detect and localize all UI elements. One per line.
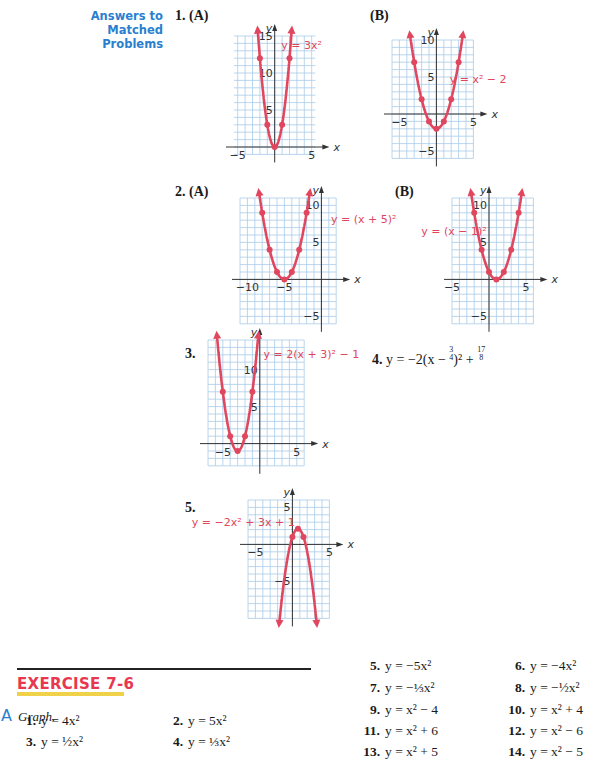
x-axis-arrow-icon xyxy=(540,277,547,282)
curve-arrow-left-icon xyxy=(256,188,264,197)
problem-5-label: 5. xyxy=(185,500,196,516)
y-axis-arrow-icon xyxy=(319,186,324,193)
exercise-problem: 5.y = −5x² xyxy=(360,658,431,674)
curve-arrow-left-icon xyxy=(468,188,476,197)
y-axis-arrow-icon xyxy=(434,28,439,35)
problem-equation: y = x² + 4 xyxy=(530,702,583,717)
data-point xyxy=(242,433,248,439)
graph-2a: xy−10−5−5510y = (x + 5)² xyxy=(226,184,370,338)
x-tick-label: 5 xyxy=(293,446,300,459)
exercise-problem: 4.y = ⅓x² xyxy=(163,734,230,750)
problem-number: 5. xyxy=(185,500,196,515)
x-axis-label: x xyxy=(550,273,558,286)
problem-2b-label: (B) xyxy=(395,184,414,200)
problem-1a-label: 1. (A) xyxy=(175,8,208,24)
problem-equation: y = x² + 5 xyxy=(385,744,438,759)
problem-number: 10. xyxy=(505,702,525,718)
problem-2a-label: 2. (A) xyxy=(175,184,208,200)
x-axis-arrow-icon xyxy=(343,277,350,282)
x-axis-arrow-icon xyxy=(311,441,318,446)
y-axis-label: y xyxy=(282,486,290,499)
graph-1b: xy−55−5510y = x² − 2 xyxy=(378,26,507,172)
exercise-problem: 8.y = −½x² xyxy=(505,680,580,696)
y-tick-label: 5 xyxy=(283,501,290,514)
problem-number: 4. xyxy=(163,734,183,750)
y-tick-label: 5 xyxy=(312,236,319,249)
y-tick-label: −5 xyxy=(471,310,487,323)
problem-number: 6. xyxy=(505,658,525,674)
exercise-problem: 11.y = x² + 6 xyxy=(360,723,438,739)
data-point xyxy=(433,126,439,132)
y-axis-label: y xyxy=(479,184,487,197)
curve-arrow-left-icon xyxy=(407,30,415,38)
fraction-17-8: 178 xyxy=(477,346,485,362)
data-point xyxy=(295,526,301,532)
problem-equation: y = −⅓x² xyxy=(385,680,435,695)
problem-part: (B) xyxy=(395,184,414,199)
answer-4-lhs: y = −2(x − xyxy=(386,352,449,367)
y-tick-label: −5 xyxy=(303,310,319,323)
data-point xyxy=(289,269,295,275)
data-point xyxy=(411,59,417,65)
x-tick-label: 5 xyxy=(470,116,477,129)
answer-4: 4. y = −2(x − 34)² + 178 xyxy=(372,346,485,368)
problem-number: 11. xyxy=(360,723,380,739)
data-point xyxy=(220,389,226,395)
data-point xyxy=(289,534,295,540)
exercise-problem: 9.y = x² − 4 xyxy=(360,702,438,718)
graph-1a: xy−5551015y = 3x² xyxy=(220,22,349,168)
problem-number: 7. xyxy=(360,680,380,696)
problem-number: 2. xyxy=(175,184,186,199)
problem-number: 13. xyxy=(360,744,380,760)
curve-arrow-right-icon xyxy=(458,30,466,38)
problem-1b-label: (B) xyxy=(370,8,389,24)
problem-number: 12. xyxy=(505,723,525,739)
data-point xyxy=(301,534,307,540)
data-point xyxy=(426,118,432,124)
equation-label: y = (x + 5)² xyxy=(331,213,396,226)
answers-heading-line2: Matched Problems xyxy=(60,23,163,51)
data-point xyxy=(287,55,293,61)
y-tick-label: 10 xyxy=(420,34,434,47)
exercise-problem: 7.y = −⅓x² xyxy=(360,680,435,696)
curve-arrow-left-icon xyxy=(213,331,221,339)
problem-number: 8. xyxy=(505,680,525,696)
grid xyxy=(452,198,533,324)
data-point xyxy=(274,269,280,275)
exercise-divider xyxy=(17,668,311,670)
x-tick-label: −10 xyxy=(236,281,259,294)
problem-number: 9. xyxy=(360,702,380,718)
problem-number: 4. xyxy=(372,352,383,367)
x-axis-label: x xyxy=(490,108,498,121)
x-axis-arrow-icon xyxy=(336,542,343,547)
problem-equation: y = x² − 6 xyxy=(530,723,583,738)
data-point xyxy=(249,389,255,395)
y-axis-arrow-icon xyxy=(272,24,277,31)
x-axis-label: x xyxy=(321,438,329,451)
data-point xyxy=(508,247,514,253)
data-point xyxy=(296,247,302,253)
data-point xyxy=(448,96,454,102)
curve-arrow-right-icon xyxy=(517,188,525,197)
graph-3: xy−55510y = 2(x + 3)² − 1 xyxy=(194,326,338,480)
x-axis-arrow-icon xyxy=(322,145,329,150)
data-point xyxy=(501,269,507,275)
exercise-title-underline xyxy=(17,692,124,696)
problem-equation: y = 5x² xyxy=(188,713,227,728)
problem-equation: y = −4x² xyxy=(530,658,576,673)
exercise-problem: 12.y = x² − 6 xyxy=(505,723,583,739)
data-point xyxy=(281,276,287,282)
data-point xyxy=(259,210,265,216)
data-point xyxy=(264,122,270,128)
data-point xyxy=(279,122,285,128)
x-axis-arrow-icon xyxy=(480,112,487,117)
curve-arrow-right-icon xyxy=(312,620,320,628)
x-tick-label: −5 xyxy=(391,116,407,129)
y-axis-arrow-icon xyxy=(290,488,295,495)
y-axis-arrow-icon xyxy=(487,186,492,193)
data-point xyxy=(441,118,447,124)
exercise-problem: 2.y = 5x² xyxy=(163,713,227,729)
data-point xyxy=(419,96,425,102)
data-point xyxy=(272,144,278,150)
problem-equation: y = −½x² xyxy=(530,680,580,695)
